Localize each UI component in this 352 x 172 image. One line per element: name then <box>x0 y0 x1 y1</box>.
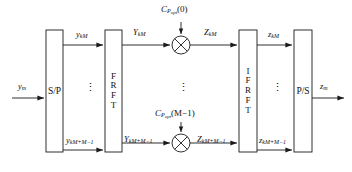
coef-arg: (M−1) <box>171 108 195 118</box>
block-ps-label: P/S <box>294 30 312 152</box>
signal-label-input-ym: ym <box>18 82 26 91</box>
signal-sub: kM <box>271 33 279 39</box>
ellipsis-ifrft-ps: ⋮ <box>272 82 283 93</box>
coef-arg: (0) <box>177 4 188 14</box>
signal-label-Z-km-m1: ZkM+M−1 <box>197 135 226 144</box>
signal-sub: kM <box>209 31 217 37</box>
signal-label-Y-km-m1: YkM+M−1 <box>124 135 153 144</box>
signal-sub: kM+M−1 <box>70 139 94 145</box>
signal-sub: kM <box>80 33 88 39</box>
ellipsis-sp-frft: ⋮ <box>85 82 96 93</box>
signal-sub: m <box>323 85 327 91</box>
ellipsis-multiplier-column: ⋮ <box>178 82 189 93</box>
coefficient-label-m1: CPopt(M−1) <box>155 109 195 119</box>
block-diagram-figure: S/P F R F T I F R F T P/S ym ykM ykM+M−1… <box>0 0 352 172</box>
signal-label-Z-km: ZkM <box>204 28 216 37</box>
signal-label-y-km: ykM <box>76 30 87 39</box>
signal-sub: kM+M−1 <box>262 139 286 145</box>
signal-sub: kM+M−1 <box>202 138 226 144</box>
block-sp-label: S/P <box>46 30 63 152</box>
block-ps-text: P/S <box>296 86 309 96</box>
block-frft-letter-4: T <box>111 101 117 111</box>
signal-label-z-km: zkM <box>268 30 279 39</box>
block-ifrft-label: I F R F T <box>239 30 257 152</box>
block-ifrft-letter-5: T <box>245 106 251 116</box>
signal-sub: kM <box>138 31 146 37</box>
signal-label-output-zm: zm <box>320 82 328 91</box>
coefficient-label-0: CPopt(0) <box>161 5 188 15</box>
block-frft-label: F R F T <box>105 30 122 152</box>
signal-label-Y-km: YkM <box>133 28 145 37</box>
signal-sub: m <box>22 85 26 91</box>
signal-sub: kM+M−1 <box>129 138 153 144</box>
signal-label-y-km-m1: ykM+M−1 <box>66 136 94 145</box>
block-sp-text: S/P <box>48 86 61 96</box>
signal-label-z-km-m1: zkM+M−1 <box>259 136 286 145</box>
